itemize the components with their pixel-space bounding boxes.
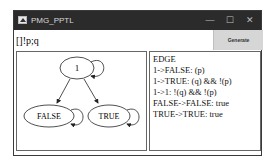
edge-line: 1->1: !(q) && !(p) xyxy=(153,87,257,98)
window-title: PMG_PPTL xyxy=(31,16,74,25)
svg-text:1: 1 xyxy=(75,63,80,73)
minimize-button[interactable]: — xyxy=(202,14,218,27)
title-bar[interactable]: PMG_PPTL — ☐ ✕ xyxy=(14,11,261,30)
graph-panel: 1 FALSE TRUE xyxy=(16,51,147,151)
generate-button[interactable]: Generate xyxy=(213,30,263,50)
edges-header: EDGE xyxy=(153,54,257,65)
edge-line: FALSE->FALSE: true xyxy=(153,98,257,109)
formula-input[interactable]: []!p;q xyxy=(16,35,39,46)
close-button[interactable]: ✕ xyxy=(242,14,258,27)
app-window: PMG_PPTL — ☐ ✕ []!p;q Generate 1 FALSE xyxy=(13,10,262,156)
maximize-button[interactable]: ☐ xyxy=(222,14,238,27)
app-icon xyxy=(18,16,27,24)
svg-text:FALSE: FALSE xyxy=(37,112,61,121)
edge-line: TRUE->TRUE: true xyxy=(153,109,257,120)
edge-line: 1->FALSE: (p) xyxy=(153,65,257,76)
edge-line: 1->TRUE: (q) && !(p) xyxy=(153,76,257,87)
state-graph: 1 FALSE TRUE xyxy=(17,52,146,150)
edges-text-panel[interactable]: EDGE 1->FALSE: (p) 1->TRUE: (q) && !(p) … xyxy=(149,51,261,151)
svg-text:TRUE: TRUE xyxy=(99,112,120,121)
